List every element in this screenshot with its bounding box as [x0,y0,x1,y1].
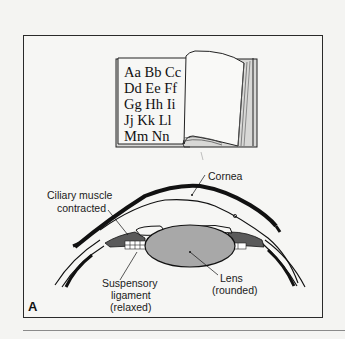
label-cornea: Cornea [208,170,243,182]
book-text-line-2: Dd Ee Ff [124,80,177,96]
book-text-line-4: Jj Kk Ll [124,112,172,128]
label-lens-line1: Lens [220,272,243,284]
label-ciliary-line2: contracted [57,202,106,214]
panel-letter: A [28,299,38,314]
book-text-line-5: Mm Nn [124,128,170,144]
label-suspensory-line2: ligament [111,289,151,301]
eye-accommodation-diagram: Aa Bb Cc Dd Ee Ff Gg Hh Ii Jj Kk Ll Mm N… [0,0,345,339]
label-suspensory-line3: (relaxed) [110,301,151,313]
label-ciliary-line1: Ciliary muscle [47,189,113,201]
suspensory-leader [120,252,137,280]
lens-shape [145,225,235,267]
label-suspensory-line1: Suspensory [102,277,158,289]
book-text-line-3: Gg Hh Ii [124,96,176,112]
open-book-illustration: Aa Bb Cc Dd Ee Ff Gg Hh Ii Jj Kk Ll Mm N… [116,51,257,147]
book-text-line-1: Aa Bb Cc [124,64,181,80]
label-lens-line2: (rounded) [212,284,258,296]
light-ray [201,152,203,160]
